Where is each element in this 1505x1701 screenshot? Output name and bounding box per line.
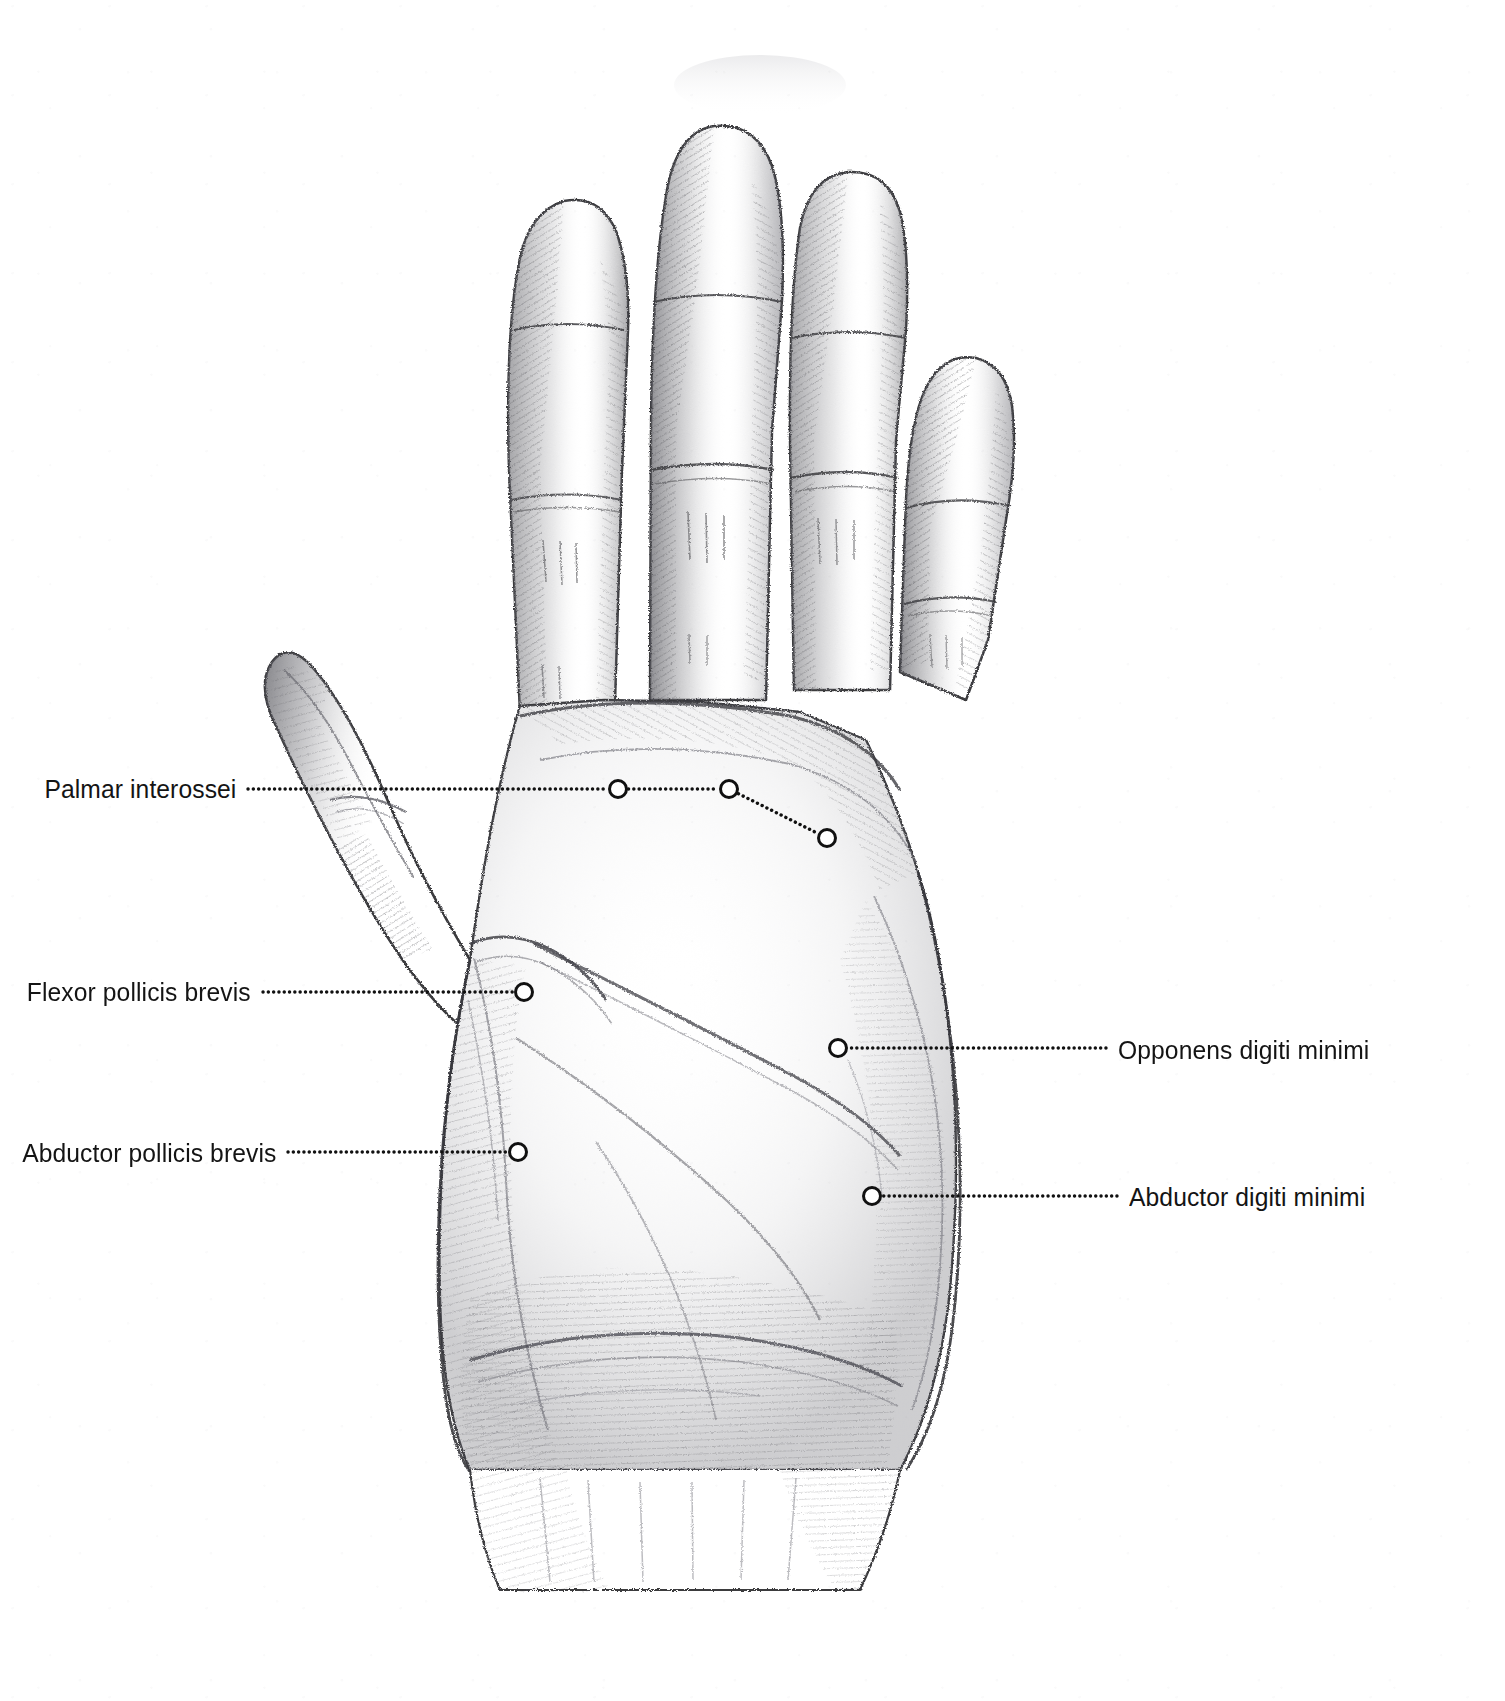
palmar-interossei-marker-2[interactable]: [819, 830, 836, 847]
index-finger: [508, 200, 628, 735]
abductor-digiti-minimi-marker-0[interactable]: [864, 1188, 881, 1205]
hand-illustration: [0, 0, 1505, 1701]
label-palmar-interossei: Palmar interossei: [44, 776, 236, 803]
little-finger: [900, 357, 1014, 700]
cast-shadow: [674, 55, 846, 115]
thumb: [265, 652, 470, 1034]
flexor-pollicis-brevis-marker-0[interactable]: [516, 984, 533, 1001]
label-flexor-pollicis-brevis: Flexor pollicis brevis: [27, 979, 251, 1006]
opponens-digiti-minimi-marker-0[interactable]: [830, 1040, 847, 1057]
label-opponens-digiti-minimi: Opponens digiti minimi: [1118, 1037, 1369, 1064]
ring-finger: [790, 172, 907, 690]
palmar-interossei-marker-0[interactable]: [610, 781, 627, 798]
abductor-pollicis-brevis-marker-0[interactable]: [510, 1144, 527, 1161]
label-abductor-pollicis-brevis: Abductor pollicis brevis: [22, 1140, 276, 1167]
palmar-interossei-marker-1[interactable]: [721, 781, 738, 798]
figure-canvas: Palmar interosseiFlexor pollicis brevisA…: [0, 0, 1505, 1701]
label-abductor-digiti-minimi: Abductor digiti minimi: [1129, 1184, 1365, 1211]
middle-finger: [650, 126, 783, 700]
